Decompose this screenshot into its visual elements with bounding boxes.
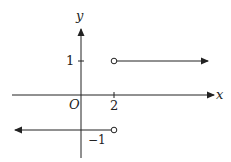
open-point-lower — [111, 127, 117, 133]
step-function-graph: y x O 2 1 −1 — [0, 0, 231, 162]
y-axis-label: y — [75, 8, 84, 23]
x-axis-label: x — [216, 87, 224, 102]
neg-y-label: −1 — [88, 133, 106, 147]
x-tick-label: 2 — [110, 98, 118, 113]
y-tick-label: 1 — [66, 53, 74, 68]
origin-label: O — [69, 97, 80, 112]
open-point-upper — [111, 58, 117, 64]
